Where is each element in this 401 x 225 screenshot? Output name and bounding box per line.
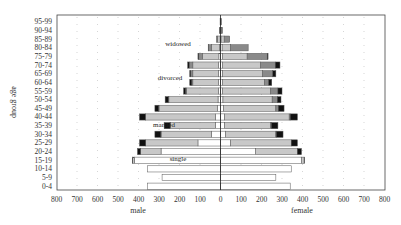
bar-male-single	[148, 183, 221, 189]
bar-female-divorced	[291, 140, 297, 146]
x-tick-label: 700	[358, 195, 370, 204]
bar-female-married	[225, 114, 290, 120]
bar-male-single	[198, 140, 221, 146]
bar-male-divorced	[190, 79, 192, 85]
y-tick-label: 95-99	[35, 17, 53, 26]
y-tick-label: 30-34	[35, 130, 53, 139]
bar-male-married	[161, 131, 211, 137]
x-tick-label: 400	[133, 195, 145, 204]
bar-female-widowed	[221, 27, 222, 33]
bar-female-widowed	[271, 88, 278, 94]
bar-female-married	[223, 53, 248, 59]
bar-female-single	[221, 157, 302, 163]
bar-female-widowed	[247, 53, 267, 59]
x-tick-labels: 8007006005004003002001000100200300400500…	[51, 195, 391, 204]
bar-female-married	[223, 79, 265, 85]
bar-female-married	[223, 62, 261, 68]
bar-male-divorced	[184, 88, 186, 94]
x-tick-label: 700	[71, 195, 83, 204]
y-tick-label: 60-64	[35, 78, 53, 87]
y-tick-label: 90-94	[35, 26, 53, 35]
x-tick-label: 500	[317, 195, 329, 204]
bar-male-married	[169, 97, 218, 103]
y-axis-title: age group	[10, 86, 19, 118]
bar-male-single	[211, 131, 220, 137]
bar-female-widowed	[265, 79, 269, 85]
bar-female-single	[221, 183, 291, 189]
x-tick-label: 100	[235, 195, 247, 204]
bar-female-single	[221, 148, 256, 154]
y-tick-label: 55-59	[35, 87, 53, 96]
bars	[132, 19, 304, 190]
bar-male-widowed	[189, 62, 193, 68]
bar-female-divorced	[269, 79, 272, 85]
bar-male-widowed	[208, 45, 211, 51]
x-tick-label: 300	[153, 195, 165, 204]
bar-female-single	[221, 166, 292, 172]
y-tick-label: 65-69	[35, 69, 53, 78]
bar-female-married	[221, 36, 224, 42]
x-tick-label: 800	[379, 195, 391, 204]
y-tick-label: 5-9	[42, 173, 52, 182]
bar-male-divorced	[140, 114, 146, 120]
bar-male-married	[141, 148, 162, 154]
bar-female-married	[224, 105, 276, 111]
bar-male-single	[215, 123, 220, 129]
bar-female-married	[222, 45, 230, 51]
bar-female-single	[221, 140, 231, 146]
x-tick-label: 400	[297, 195, 309, 204]
annotation-divorced: divorced	[158, 74, 183, 82]
bar-male-divorced	[188, 62, 189, 68]
bar-male-divorced	[190, 71, 191, 77]
bar-male-divorced	[137, 148, 140, 154]
x-tick-label: 200	[174, 195, 186, 204]
bar-female-single	[221, 105, 224, 111]
bar-male-single	[148, 166, 221, 172]
bar-female-married	[255, 148, 297, 154]
bar-male-married	[211, 45, 219, 51]
bar-male-widowed	[191, 71, 193, 77]
y-tick-label: 75-79	[35, 52, 53, 61]
bar-male-married	[187, 88, 219, 94]
x-tick-label: 300	[276, 195, 288, 204]
bar-female-divorced	[290, 114, 297, 120]
x-tick-label: 800	[51, 195, 63, 204]
y-tick-label: 0-4	[42, 182, 52, 191]
bar-male-single	[215, 114, 220, 120]
bar-female-single	[221, 174, 276, 180]
x-axis-title-female: female	[291, 206, 313, 215]
bar-male-divorced	[198, 53, 199, 59]
y-tick-label: 20-24	[35, 147, 53, 156]
bar-female-divorced	[278, 88, 282, 94]
bar-female-widowed	[272, 97, 277, 103]
bar-female-divorced	[278, 105, 284, 111]
bar-female-divorced	[297, 148, 301, 154]
y-tick-label: 15-19	[35, 156, 53, 165]
y-tick-label: 10-14	[35, 164, 53, 173]
bar-male-married	[159, 105, 217, 111]
bar-female-divorced	[275, 62, 280, 68]
y-tick-label: 40-44	[35, 112, 53, 121]
bar-male-single	[217, 105, 220, 111]
bar-male-married	[193, 62, 219, 68]
y-tick-label: 45-49	[35, 104, 53, 113]
y-tick-labels: 95-9990-9485-8980-8475-7970-7465-6960-64…	[35, 17, 53, 190]
annotation-single: single	[170, 155, 187, 163]
bar-male-married	[146, 114, 216, 120]
bar-male-married	[202, 53, 218, 59]
bar-female-married	[223, 71, 263, 77]
x-tick-label: 0	[219, 195, 223, 204]
bar-male-married	[170, 123, 215, 129]
annotation-widowed: widowed	[165, 40, 191, 48]
bar-female-married	[226, 131, 276, 137]
bar-male-married	[218, 36, 220, 42]
bar-female-married	[223, 88, 271, 94]
y-tick-label: 70-74	[35, 61, 53, 70]
bar-male-widowed	[216, 36, 217, 42]
bar-female-married	[225, 123, 271, 129]
bar-female-single	[221, 131, 226, 137]
x-tick-label: 200	[256, 195, 268, 204]
bar-female-widowed	[224, 36, 230, 42]
bar-female-married	[301, 157, 304, 163]
bar-female-divorced	[277, 97, 281, 103]
